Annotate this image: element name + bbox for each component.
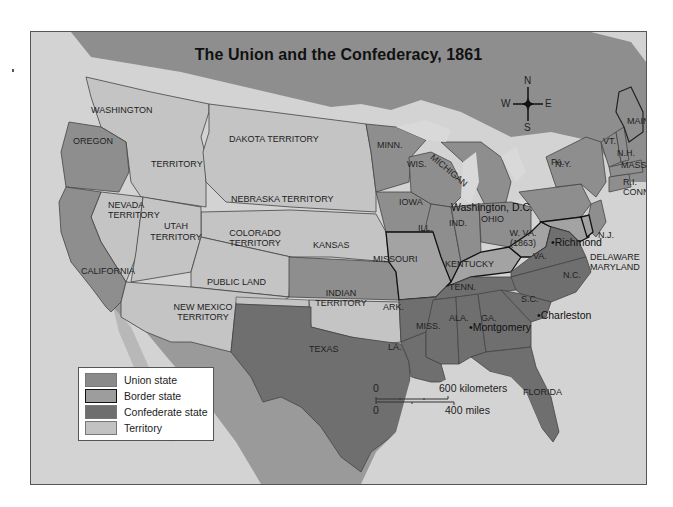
city-charleston: •Charleston: [537, 310, 591, 321]
label-la: LA.: [388, 342, 402, 352]
stray-mark: [12, 69, 14, 72]
label-maryland: MARYLAND: [590, 262, 640, 272]
label-tenn: TENN.: [449, 282, 476, 292]
legend-label: Border state: [124, 390, 181, 402]
label-wva-1: W. VA.: [505, 228, 541, 238]
legend-item-confederate: Confederate state: [85, 405, 207, 419]
label-va: VA.: [533, 251, 547, 261]
label-wis: WIS.: [407, 159, 427, 169]
label-wva-2: (1863): [505, 238, 541, 248]
label-maine: MAINE: [627, 116, 647, 126]
label-mass: MASS.: [621, 160, 647, 170]
legend: Union state Border state Confederate sta…: [78, 367, 214, 441]
label-indian-1: INDIAN: [311, 288, 371, 298]
compass-rose: N S E W: [503, 77, 553, 133]
scale-bar: 0 600 kilometers 0 400 miles: [373, 382, 513, 432]
legend-label: Confederate state: [124, 406, 207, 418]
label-texas: TEXAS: [309, 344, 339, 354]
label-nc: N.C.: [563, 270, 581, 280]
compass-n: N: [524, 75, 531, 86]
label-sc: S.C.: [521, 294, 539, 304]
city-richmond: •Richmond: [551, 237, 602, 248]
scale-km-zero: 0: [373, 382, 379, 394]
legend-swatch-confederate: [85, 405, 117, 419]
label-washington: WASHINGTON: [91, 105, 153, 115]
label-florida: FLORIDA: [523, 387, 562, 397]
compass-s: S: [524, 122, 531, 133]
label-ind: IND.: [449, 218, 467, 228]
label-indian-2: TERRITORY: [311, 298, 371, 308]
map-frame: The Union and the Confederacy, 1861 N S …: [30, 31, 647, 485]
label-ohio: OHIO: [481, 214, 504, 224]
scale-lines: [375, 395, 455, 407]
legend-item-territory: Territory: [85, 421, 162, 435]
legend-item-border: Border state: [85, 389, 181, 403]
legend-item-union: Union state: [85, 373, 177, 387]
label-oregon: OREGON: [73, 136, 113, 146]
label-colorado-2: TERRITORY: [225, 238, 285, 248]
label-iowa: IOWA: [399, 197, 423, 207]
label-public-land: PUBLIC LAND: [207, 277, 266, 287]
scale-km-label: 600 kilometers: [439, 382, 507, 394]
legend-swatch-territory: [85, 421, 117, 435]
label-nevada-2: TERRITORY: [108, 210, 160, 220]
label-ill: ILL.: [418, 223, 433, 233]
label-kansas: KANSAS: [313, 240, 350, 250]
label-ri: R.I.: [623, 177, 637, 187]
label-nebraska: NEBRASKA TERRITORY: [231, 194, 334, 204]
label-new-mexico-1: NEW MEXICO: [166, 302, 240, 312]
map-title: The Union and the Confederacy, 1861: [31, 46, 646, 64]
label-colorado-1: COLORADO: [225, 228, 285, 238]
label-utah-2: TERRITORY: [148, 232, 204, 242]
city-washington-dc: Washington, D.C.: [451, 202, 533, 213]
legend-swatch-union: [85, 373, 117, 387]
label-delaware: DELAWARE: [590, 252, 640, 262]
label-conn: CONN.: [623, 187, 647, 197]
label-kentucky: KENTUCKY: [445, 259, 494, 269]
label-california: CALIFORNIA: [81, 266, 135, 276]
label-new-mexico-2: TERRITORY: [166, 312, 240, 322]
label-washington-territory: TERRITORY: [151, 159, 203, 169]
compass-e: E: [545, 98, 552, 109]
label-nh: N.H.: [617, 148, 635, 158]
scale-mi-zero: 0: [373, 404, 379, 416]
label-dakota: DAKOTA TERRITORY: [229, 134, 319, 144]
legend-label: Union state: [124, 374, 177, 386]
label-nevada-1: NEVADA: [108, 200, 144, 210]
label-ala: ALA.: [449, 313, 469, 323]
compass-w: W: [501, 98, 510, 109]
label-minn: MINN.: [377, 140, 403, 150]
label-utah-1: UTAH: [148, 221, 204, 231]
label-miss: MISS.: [416, 321, 441, 331]
city-montgomery: •Montgomery: [469, 322, 531, 333]
label-ny: N.Y.: [555, 159, 571, 169]
label-ark: ARK.: [383, 302, 404, 312]
scale-mi-label: 400 miles: [445, 404, 490, 416]
legend-label: Territory: [124, 422, 162, 434]
legend-swatch-border: [85, 389, 117, 403]
label-missouri: MISSOURI: [373, 254, 418, 264]
label-vt: VT.: [603, 136, 616, 146]
